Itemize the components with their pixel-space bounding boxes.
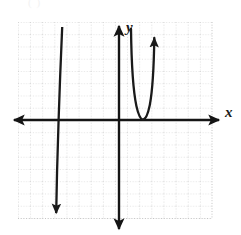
graph-figure: ( ) y x xyxy=(0,0,241,235)
y-axis-label: y xyxy=(124,19,133,35)
x-axis-label: x xyxy=(224,104,233,120)
coordinate-plane: y x xyxy=(0,0,241,235)
